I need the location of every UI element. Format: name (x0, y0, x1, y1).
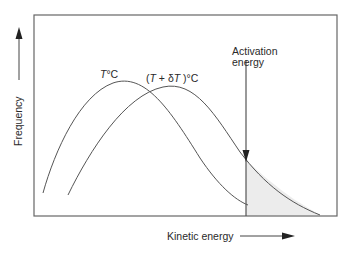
x-axis-arrowhead-icon (282, 233, 295, 240)
plot-frame (34, 15, 337, 216)
energy-distribution-diagram: Frequency Kinetic energy T°C (T + δT )°C… (0, 0, 349, 253)
curve-t (43, 81, 248, 205)
activation-label-line2: energy (232, 56, 265, 68)
shaded-activation-region (246, 160, 320, 216)
curve-t-label-unit: °C (106, 68, 118, 80)
x-axis-label: Kinetic energy (167, 230, 234, 242)
curve2-mid: + δ (156, 72, 174, 84)
y-axis-arrowhead-icon (16, 27, 23, 39)
y-axis-label: Frequency (12, 96, 24, 146)
curve-t-label: T°C (100, 68, 119, 80)
curve2-close: )°C (180, 72, 199, 84)
curve-t-plus-dt-label: (T + δT )°C (146, 72, 199, 84)
